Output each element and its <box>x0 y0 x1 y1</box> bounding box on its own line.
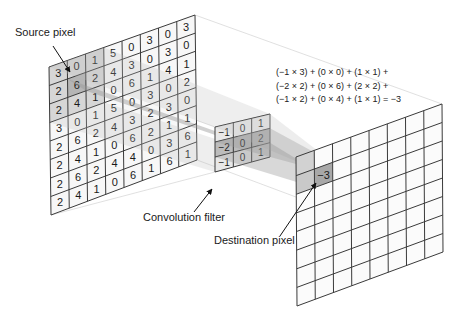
formula-line-3: (−1 × 2) + (0 × 4) + (1 × 1) = −3 <box>276 93 401 107</box>
cell-value: 3 <box>183 21 189 33</box>
cell-value: 2 <box>56 159 62 171</box>
formula-line-2: (−2 × 2) + (0 × 6) + (2 × 2) + <box>276 80 401 94</box>
cell-value: 2 <box>55 85 61 97</box>
cell-value: 4 <box>75 153 81 165</box>
cell-value: 4 <box>75 189 81 201</box>
cell-value: 2 <box>56 141 62 153</box>
destination-pixel-label: Destination pixel <box>214 234 295 246</box>
cell-value: 6 <box>75 171 81 183</box>
cell-value: 3 <box>146 34 152 46</box>
cell-value: 0 <box>128 41 134 53</box>
cell-value: 0 <box>165 28 171 40</box>
cell-value: 1 <box>93 146 99 158</box>
cell-value: 1 <box>93 183 99 195</box>
source-pixel-label: Source pixel <box>15 26 76 38</box>
cell-value: 1 <box>148 162 154 174</box>
convolution-formula: (−1 × 3) + (0 × 0) + (1 × 1) + (−2 × 2) … <box>276 66 401 107</box>
convolution-filter-arrow-icon <box>194 189 212 212</box>
convolution-diagram: 3015030326243030241061413015030226243230… <box>0 0 463 324</box>
cell-value: 4 <box>130 151 136 163</box>
cell-value: 0 <box>112 176 118 188</box>
destination-pixel-value: −3 <box>317 169 330 181</box>
cell-value: 0 <box>147 53 153 65</box>
cell-value: 2 <box>93 164 99 176</box>
formula-line-1: (−1 × 3) + (0 × 0) + (1 × 1) + <box>276 66 401 80</box>
cell-value: 3 <box>165 46 171 58</box>
output-image-grid: −3 <box>296 104 443 306</box>
cell-value: 0 <box>183 39 189 51</box>
cell-value: 1 <box>183 58 189 70</box>
cell-value: 4 <box>111 157 117 169</box>
cell-value: 6 <box>74 134 80 146</box>
cell-value: 2 <box>56 104 62 116</box>
convolution-filter-label: Convolution filter <box>143 211 225 223</box>
cell-value: 2 <box>57 196 63 208</box>
cell-value: 2 <box>57 178 63 190</box>
cell-value: 6 <box>130 169 136 181</box>
cell-value: 4 <box>74 97 80 109</box>
